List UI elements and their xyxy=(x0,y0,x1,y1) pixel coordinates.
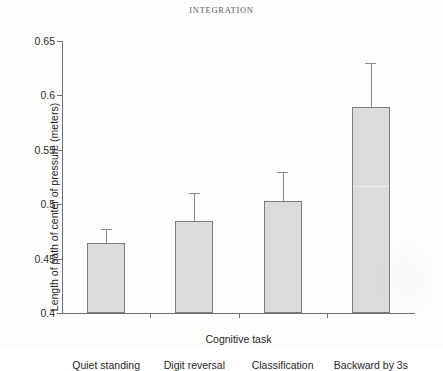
x-axis-category-label: Backward by 3s xyxy=(334,359,408,371)
x-axis-category-label: Digit reversal xyxy=(164,359,225,371)
scan-artifact-line xyxy=(353,186,389,187)
error-bar-cap xyxy=(277,172,288,173)
error-bar-stem xyxy=(371,63,372,108)
bar xyxy=(87,243,125,313)
x-axis-tick-mark xyxy=(327,313,328,318)
bar xyxy=(175,221,213,313)
x-axis-category-label: Classification xyxy=(252,359,314,371)
error-bar-stem xyxy=(194,193,195,220)
plot-area: 0.40.450.50.550.60.65 Quiet standingDigi… xyxy=(62,41,415,313)
x-axis-tick-mark xyxy=(150,313,151,318)
x-axis-tick-mark xyxy=(239,313,240,318)
error-bar-cap xyxy=(365,63,376,64)
y-axis-tick-label: 0.65 xyxy=(35,35,55,47)
bar xyxy=(264,201,302,313)
y-axis-tick-mark xyxy=(57,41,62,42)
y-axis-line xyxy=(62,41,63,313)
error-bar-cap xyxy=(189,193,200,194)
x-axis-title: Cognitive task xyxy=(62,333,415,345)
y-axis-title: Length of path of center of pressure (me… xyxy=(48,57,60,357)
x-axis-category-label: Quiet standing xyxy=(72,359,140,371)
error-bar-stem xyxy=(106,229,107,243)
bar xyxy=(352,107,390,313)
error-bar-cap xyxy=(101,229,112,230)
error-bar-stem xyxy=(283,172,284,201)
